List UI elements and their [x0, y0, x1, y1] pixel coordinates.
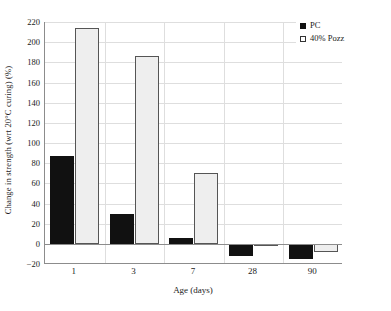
y-axis-tick-label: 60 [32, 178, 41, 188]
filled-square-icon [300, 23, 306, 29]
y-axis-tick-label: 220 [27, 17, 40, 27]
y-axis-tick-label: 140 [27, 98, 40, 108]
y-axis-tick-label: 20 [32, 219, 41, 229]
y-axis-tick-label: 200 [27, 37, 40, 47]
zero-axis-line [45, 244, 342, 245]
y-axis-tick-label: 100 [27, 138, 40, 148]
bar-pozz [75, 28, 99, 244]
bar-pozz [135, 56, 159, 244]
bar-pc [229, 244, 253, 256]
x-axis-tick-label: 90 [308, 266, 317, 276]
legend-item-label: 40% Pozz [310, 32, 344, 45]
bar-group [224, 22, 284, 264]
y-axis-tick-label: 80 [32, 158, 41, 168]
legend-item: 40% Pozz [300, 32, 344, 45]
y-axis-tick-label: −20 [27, 259, 40, 269]
bar-group [105, 22, 165, 264]
bar-pc [50, 156, 74, 244]
bar-pc [289, 244, 313, 259]
bar-group [283, 22, 343, 264]
legend-item-label: PC [310, 19, 320, 32]
bar-pozz [194, 173, 218, 244]
y-axis-title-text: Change in strength (wrt 20°C curing) (%) [3, 66, 13, 215]
bar-chart-figure: Change in strength (wrt 20°C curing) (%)… [0, 0, 391, 311]
legend-item: PC [300, 19, 344, 32]
bar-pozz [314, 244, 338, 252]
bar-pc [110, 214, 134, 244]
bar-group [45, 22, 105, 264]
x-axis-title-text: Age (days) [173, 285, 213, 295]
y-axis-tick-label: 0 [36, 239, 40, 249]
chart-legend: PC40% Pozz [296, 16, 348, 48]
plot-area [44, 22, 342, 264]
y-axis-tick-label: 160 [27, 78, 40, 88]
x-axis-title: Age (days) [44, 285, 342, 295]
x-axis-tick-label: 28 [248, 266, 257, 276]
y-axis-tick-label: 120 [27, 118, 40, 128]
x-axis-tick-label: 7 [191, 266, 196, 276]
open-square-icon [300, 36, 306, 42]
y-axis-tick-label: 40 [32, 199, 41, 209]
x-axis-line [45, 263, 342, 264]
y-axis-tick-labels: 220200180160140120100806040200−20 [14, 22, 42, 264]
x-axis-tick-labels: 1372890 [44, 266, 342, 282]
bar-group [164, 22, 224, 264]
x-axis-tick-label: 1 [72, 266, 77, 276]
y-axis-tick-label: 180 [27, 57, 40, 67]
x-axis-tick-label: 3 [131, 266, 136, 276]
